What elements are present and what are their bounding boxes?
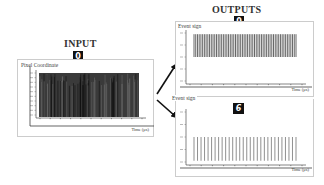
output-1-x-axis-label: Time (μs)	[291, 87, 309, 92]
output-1-raster-chart	[176, 22, 313, 96]
input-title: INPUT	[64, 38, 97, 49]
output-2-raster-chart	[176, 99, 313, 176]
input-raster-chart	[18, 60, 153, 136]
output-2-x-axis-label: Time (μs)	[291, 167, 309, 172]
input-x-axis-label: Time (μs)	[131, 127, 149, 132]
output-digit-6-icon: 6	[233, 103, 244, 114]
outputs-title: OUTPUTS	[212, 4, 261, 15]
output-panel-1: Event sign Time (μs)	[175, 21, 314, 97]
output-panel-2: Event sign Time (μs)	[175, 99, 314, 177]
input-panel: Pixel Coordinate Time (μs)	[17, 59, 154, 137]
